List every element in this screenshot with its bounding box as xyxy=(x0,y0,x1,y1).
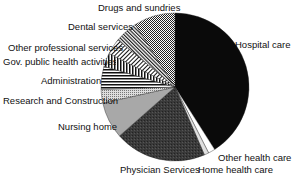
label-gov-public-health: Gov. public health activities xyxy=(3,56,116,67)
label-home-health-care: Home health care xyxy=(198,164,273,175)
label-research-construction: Research and Construction xyxy=(3,95,118,106)
label-dental-services: Dental services xyxy=(68,21,133,32)
label-hospital-care: Hospital care xyxy=(235,39,290,50)
label-nursing-home: Nursing home xyxy=(58,121,117,132)
label-drugs-and-sundries: Drugs and sundries xyxy=(98,2,180,13)
label-administration: Administration xyxy=(41,75,101,86)
label-other-professional-services: Other professional services xyxy=(8,42,123,53)
label-physician-services: Physician Services xyxy=(120,164,200,175)
pie-chart xyxy=(0,0,294,177)
label-other-health-care: Other health care xyxy=(218,152,291,163)
